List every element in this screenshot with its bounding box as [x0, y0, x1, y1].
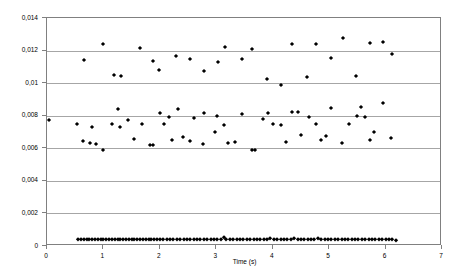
data-point	[151, 59, 155, 63]
data-point	[253, 148, 257, 152]
data-point	[347, 122, 351, 126]
data-point	[132, 137, 136, 141]
data-point	[339, 141, 343, 145]
data-point	[82, 58, 86, 62]
data-point	[118, 125, 122, 129]
x-tick-mark	[215, 245, 216, 249]
data-point	[313, 42, 317, 46]
x-tick-mark	[46, 245, 47, 249]
data-point	[158, 111, 162, 115]
data-point	[216, 60, 220, 64]
data-point	[226, 141, 230, 145]
data-point	[75, 122, 79, 126]
data-point	[140, 122, 144, 126]
data-point	[329, 56, 333, 60]
data-point	[295, 110, 299, 114]
data-point	[157, 68, 161, 72]
data-points-layer	[47, 18, 440, 244]
data-point	[115, 107, 119, 111]
data-point	[202, 69, 206, 73]
data-point	[47, 118, 51, 122]
data-point	[278, 123, 282, 127]
data-point	[250, 47, 254, 51]
data-point	[354, 74, 358, 78]
data-point	[389, 136, 393, 140]
data-point	[219, 238, 223, 242]
data-point	[192, 115, 196, 119]
y-tick-label: 0,004	[22, 176, 38, 183]
data-point	[355, 114, 359, 118]
y-tick-label: 0,01	[25, 79, 38, 86]
data-point	[307, 115, 311, 119]
data-point	[260, 117, 264, 121]
data-point	[221, 123, 225, 127]
x-tick-mark	[328, 245, 329, 249]
data-point	[381, 101, 385, 105]
data-point	[390, 52, 394, 56]
data-point	[299, 133, 303, 137]
data-point	[278, 83, 282, 87]
y-tick-label: 0,006	[22, 144, 38, 151]
data-point	[215, 114, 219, 118]
data-point	[319, 138, 323, 142]
data-point	[170, 138, 174, 142]
y-tick-label: 0,012	[22, 46, 38, 53]
data-point	[202, 111, 206, 115]
data-point	[167, 114, 171, 118]
data-point	[112, 73, 116, 77]
data-point	[324, 134, 328, 138]
x-tick-mark	[159, 245, 160, 249]
data-point	[101, 42, 105, 46]
data-point	[368, 138, 372, 142]
data-point	[188, 139, 192, 143]
data-point	[271, 122, 275, 126]
x-axis-title-text: Time (s)	[207, 258, 257, 265]
data-point	[394, 238, 398, 242]
data-point	[290, 42, 294, 46]
data-point	[240, 56, 244, 60]
data-point	[341, 36, 345, 40]
x-tick-mark	[272, 245, 273, 249]
data-point	[212, 130, 216, 134]
data-point	[368, 41, 372, 45]
data-point	[266, 111, 270, 115]
data-point	[137, 46, 141, 50]
scatter-chart: 00,0020,0040,0060,0080,010,0120,014 0123…	[0, 0, 463, 279]
y-tick-label: 0,014	[22, 14, 38, 21]
data-point	[151, 143, 155, 147]
data-point	[90, 125, 94, 129]
data-point	[162, 122, 166, 126]
data-point	[188, 57, 192, 61]
data-point	[233, 140, 237, 144]
x-tick-mark	[102, 245, 103, 249]
data-point	[284, 140, 288, 144]
x-axis-title: Time (s)	[0, 258, 463, 266]
data-point	[174, 54, 178, 58]
data-point	[126, 118, 130, 122]
data-point	[101, 148, 105, 152]
data-point	[359, 105, 363, 109]
data-point	[290, 110, 294, 114]
data-point	[80, 139, 84, 143]
data-point	[363, 115, 367, 119]
data-point	[381, 40, 385, 44]
data-point	[240, 112, 244, 116]
data-point	[119, 74, 123, 78]
data-point	[176, 107, 180, 111]
data-point	[88, 141, 92, 145]
y-axis: 00,0020,0040,0060,0080,010,0120,014	[0, 0, 46, 279]
x-tick-mark	[441, 245, 442, 249]
plot-area	[46, 17, 441, 245]
y-tick-label: 0,002	[22, 209, 38, 216]
data-point	[372, 130, 376, 134]
data-point	[313, 122, 317, 126]
data-point	[181, 135, 185, 139]
y-tick-label: 0,008	[22, 111, 38, 118]
data-point	[265, 76, 269, 80]
data-point	[110, 122, 114, 126]
data-point	[329, 105, 333, 109]
data-point	[94, 142, 98, 146]
data-point	[304, 75, 308, 79]
data-point	[223, 45, 227, 49]
x-tick-mark	[385, 245, 386, 249]
